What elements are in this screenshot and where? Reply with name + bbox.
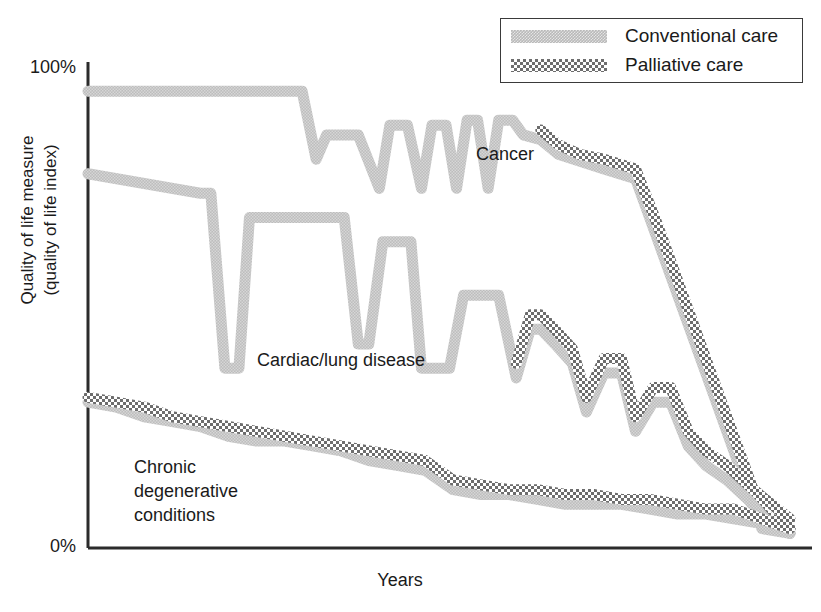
series-line-1 bbox=[541, 130, 790, 529]
annotation-chronic-degenerative-conditions: Chronic degenerative conditions bbox=[134, 455, 238, 527]
legend-swatch-conventional-care bbox=[511, 30, 607, 43]
legend-item-palliative-care: Palliative care bbox=[511, 52, 743, 78]
x-axis-title: Years bbox=[300, 570, 500, 591]
chart-legend: Conventional care Palliative care bbox=[500, 18, 803, 83]
annotation-cardiac-lung-disease: Cardiac/lung disease bbox=[257, 348, 425, 372]
quality-of-life-chart: Quality of life measure (quality of life… bbox=[0, 0, 821, 612]
y-tick-label-100: 100% bbox=[0, 57, 76, 78]
legend-label-palliative-care: Palliative care bbox=[625, 54, 743, 76]
annotation-cancer: Cancer bbox=[476, 142, 534, 166]
y-tick-label-0: 0% bbox=[0, 536, 76, 557]
legend-item-conventional-care: Conventional care bbox=[511, 23, 778, 49]
legend-swatch-palliative-care bbox=[511, 59, 607, 72]
legend-label-conventional-care: Conventional care bbox=[625, 25, 778, 47]
chart-plot-area bbox=[0, 0, 821, 612]
